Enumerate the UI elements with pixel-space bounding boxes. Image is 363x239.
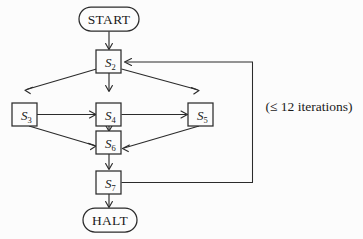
node-halt[interactable]: HALT	[83, 208, 137, 232]
node-s6-subscript: 6	[112, 143, 116, 153]
edge-s3-to-s6	[29, 126, 96, 150]
edge-s2-to-s5	[122, 69, 200, 94]
node-s5-subscript: 5	[204, 115, 208, 125]
node-s3-subscript: 3	[28, 115, 32, 125]
node-halt-label: HALT	[92, 213, 128, 228]
state-flowchart: START S2 S3 S4 S5	[0, 0, 363, 239]
iterations-annotation: (≤ 12 iterations)	[266, 99, 353, 114]
edge-s2-to-s4	[106, 73, 113, 92]
node-s2[interactable]: S2	[96, 50, 121, 73]
diagram-canvas: START S2 S3 S4 S5	[0, 0, 363, 239]
edge-start-to-s2	[106, 32, 113, 50]
node-s4[interactable]: S4	[96, 103, 121, 126]
edge-s3-to-s4	[37, 111, 97, 118]
node-s2-subscript: 2	[112, 62, 116, 72]
edge-s7-to-s2-feedback	[122, 59, 253, 183]
node-s7-subscript: 7	[112, 183, 116, 193]
edge-s2-to-s3	[25, 69, 97, 94]
node-s3[interactable]: S3	[12, 103, 37, 126]
edge-s4-to-s5	[122, 111, 188, 118]
node-s7[interactable]: S7	[96, 171, 121, 194]
edge-s6-to-s7	[106, 154, 113, 170]
node-s5[interactable]: S5	[188, 103, 213, 126]
node-start[interactable]: START	[79, 7, 139, 31]
edge-s7-to-halt	[106, 194, 113, 208]
node-start-label: START	[88, 12, 131, 27]
node-s6[interactable]: S6	[96, 131, 121, 154]
edge-s5-to-s6	[123, 126, 200, 152]
